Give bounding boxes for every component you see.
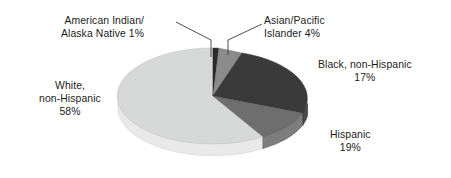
- pie-chart-figure: American Indian/ Alaska Native 1% Asian/…: [0, 0, 451, 178]
- pie-label-white-non-hispanic: White, non-Hispanic 58%: [22, 79, 118, 119]
- pie-label-white-non-hispanic-line3: 58%: [22, 105, 118, 118]
- pie-label-hispanic: Hispanic 19%: [330, 128, 371, 154]
- pie-label-white-non-hispanic-line1: White,: [22, 79, 118, 92]
- leader-line-asian-pacific: [228, 24, 262, 55]
- pie-label-asian-pacific-line1: Asian/Pacific: [264, 14, 325, 27]
- pie-label-asian-pacific: Asian/Pacific Islander 4%: [264, 14, 325, 40]
- pie-label-american-indian: American Indian/ Alaska Native 1%: [61, 14, 144, 40]
- pie-label-asian-pacific-line2: Islander 4%: [264, 27, 325, 40]
- pie-top-face: [117, 48, 307, 144]
- pie-label-black-non-hispanic-line2: 17%: [318, 71, 412, 84]
- pie-label-hispanic-line1: Hispanic: [330, 128, 371, 141]
- pie-label-white-non-hispanic-line2: non-Hispanic: [22, 92, 118, 105]
- pie-label-american-indian-line2: Alaska Native 1%: [61, 27, 144, 40]
- pie-label-hispanic-line2: 19%: [330, 141, 371, 154]
- pie-label-black-non-hispanic-line1: Black, non-Hispanic: [318, 58, 412, 71]
- pie-label-american-indian-line1: American Indian/: [61, 14, 144, 27]
- pie-label-black-non-hispanic: Black, non-Hispanic 17%: [318, 58, 412, 84]
